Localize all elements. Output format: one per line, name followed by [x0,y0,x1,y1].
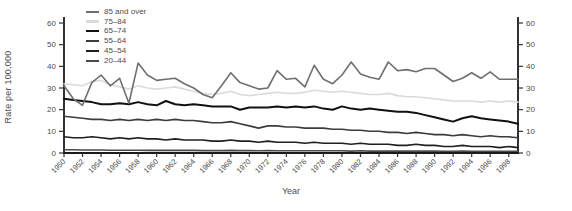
y-tick-label: 60 [47,19,56,28]
x-tick-label: 1960 [142,157,160,175]
series-line-45-54 [64,137,518,148]
x-tick-label: 1984 [364,157,382,175]
x-tick-label: 1990 [420,157,438,175]
y-tick-label: 0 [52,149,57,158]
x-tick-label: 1986 [383,157,401,175]
legend-item: 45–54 [86,47,146,55]
x-tick-label: 1966 [197,157,215,175]
legend-item: 85 and over [86,8,146,16]
y-axis-title: Rate per 100,000 [3,27,13,147]
y-tick-label-right: 40 [526,62,535,71]
x-tick-label: 1950 [49,157,67,175]
series-line-20-44 [64,150,518,152]
legend-swatch [86,11,99,13]
x-tick-label: 1976 [290,157,308,175]
x-tick-label: 1992 [438,157,456,175]
legend-item: 20–44 [86,57,146,65]
x-tick-label: 1996 [475,157,493,175]
y-tick-label: 40 [47,62,56,71]
y-tick-label: 50 [47,40,56,49]
y-tick-label-right: 60 [526,19,535,28]
x-tick-label: 1982 [346,157,364,175]
x-tick-label: 1968 [216,157,234,175]
chart-figure: 0010102020303040405050606019501952195419… [0,0,572,211]
x-tick-label: 1998 [494,157,512,175]
x-tick-label: 1978 [309,157,327,175]
legend-item: 75–84 [86,18,146,26]
legend-label: 75–84 [104,18,126,26]
x-tick-label: 1954 [86,157,104,175]
x-tick-label: 1994 [457,157,475,175]
series-line-85-and-over [64,62,518,105]
y-tick-label: 20 [47,105,56,114]
y-tick-label-right: 10 [526,127,535,136]
legend-swatch [86,60,99,62]
x-tick-label: 1956 [105,157,123,175]
legend-label: 45–54 [104,47,126,55]
legend-label: 85 and over [104,8,146,16]
y-tick-label: 30 [47,84,56,93]
legend-swatch [86,40,99,42]
legend-swatch [86,50,99,52]
y-tick-label: 10 [47,127,56,136]
series-line-55-64 [64,116,518,138]
chart-legend: 85 and over75–8465–7455–6445–5420–44 [86,8,146,65]
legend-swatch [86,20,99,22]
x-tick-label: 1972 [253,157,271,175]
legend-swatch [86,30,99,32]
y-tick-label-right: 0 [526,149,531,158]
x-tick-label: 1952 [68,157,86,175]
x-tick-label: 1980 [327,157,345,175]
legend-item: 55–64 [86,37,146,45]
legend-label: 55–64 [104,37,126,45]
x-axis-title: Year [64,186,518,196]
legend-label: 65–74 [104,27,126,35]
y-tick-label-right: 30 [526,84,535,93]
x-tick-label: 1974 [272,157,290,175]
x-tick-label: 1962 [160,157,178,175]
y-tick-label-right: 50 [526,40,535,49]
legend-item: 65–74 [86,28,146,36]
x-tick-label: 1964 [179,157,197,175]
x-tick-label: 1988 [401,157,419,175]
y-tick-label-right: 20 [526,105,535,114]
legend-label: 20–44 [104,57,126,65]
x-tick-label: 1970 [235,157,253,175]
x-tick-label: 1958 [123,157,141,175]
